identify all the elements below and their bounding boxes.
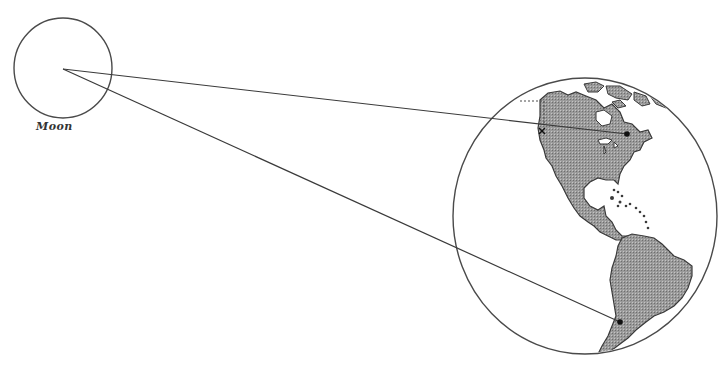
caribbean-islands: [610, 189, 649, 230]
moon-label: Moon: [36, 120, 73, 133]
south-america: [598, 234, 692, 356]
north-observer-dot: [624, 131, 630, 137]
greenland: [650, 86, 672, 108]
parallax-diagram: [0, 0, 728, 365]
sight-line-south: [63, 69, 620, 322]
south-observer-dot: [617, 319, 623, 325]
north-america: [538, 91, 652, 240]
moon-circle: [14, 18, 112, 118]
americas-land: [520, 82, 692, 356]
